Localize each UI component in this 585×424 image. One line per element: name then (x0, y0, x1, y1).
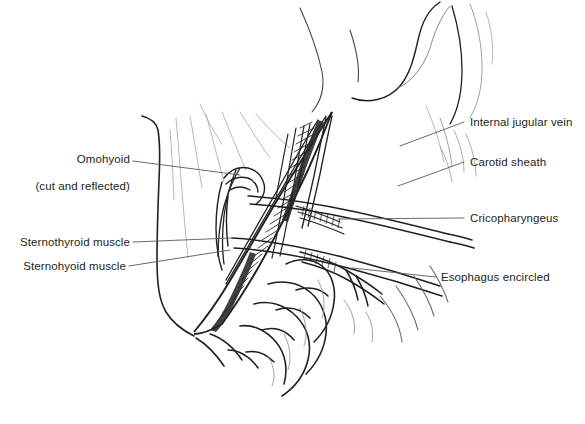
label-internal-jugular-vein: Internal jugular vein (470, 116, 572, 130)
label-sternothyroid-muscle: Sternothyroid muscle (0, 236, 130, 250)
label-cricopharyngeus: Cricopharyngeus (470, 212, 558, 226)
label-omohyoid-line1: Omohyoid (77, 153, 130, 165)
label-carotid-sheath: Carotid sheath (470, 156, 546, 170)
label-omohyoid: Omohyoid (cut and reflected) (0, 139, 130, 207)
label-esophagus-encircled: Esophagus encircled (441, 271, 550, 285)
label-sternohyoid-muscle: Sternohyoid muscle (0, 260, 126, 274)
label-omohyoid-line2: (cut and reflected) (35, 180, 130, 192)
anatomical-illustration-figure: Omohyoid (cut and reflected) Sternothyro… (0, 0, 585, 424)
